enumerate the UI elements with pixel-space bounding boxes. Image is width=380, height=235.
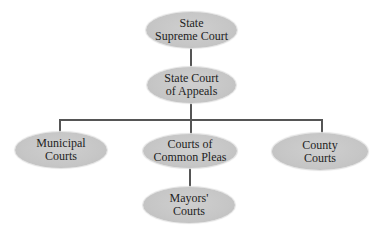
node-label: Mayors' Courts xyxy=(170,192,209,218)
node-label: State Court of Appeals xyxy=(164,72,218,98)
node-county-courts: County Courts xyxy=(272,133,368,170)
node-label: Courts of Common Pleas xyxy=(153,138,226,164)
court-hierarchy-diagram: State Supreme Court State Court of Appea… xyxy=(0,0,380,235)
node-label: State Supreme Court xyxy=(155,17,228,43)
node-mayors-courts: Mayors' Courts xyxy=(143,187,235,223)
node-courts-of-common-pleas: Courts of Common Pleas xyxy=(143,134,237,168)
node-label: County Courts xyxy=(302,139,337,165)
node-state-court-of-appeals: State Court of Appeals xyxy=(147,67,236,103)
node-label: Municipal Courts xyxy=(36,137,85,163)
node-state-supreme-court: State Supreme Court xyxy=(146,12,237,48)
node-municipal-courts: Municipal Courts xyxy=(15,132,107,168)
